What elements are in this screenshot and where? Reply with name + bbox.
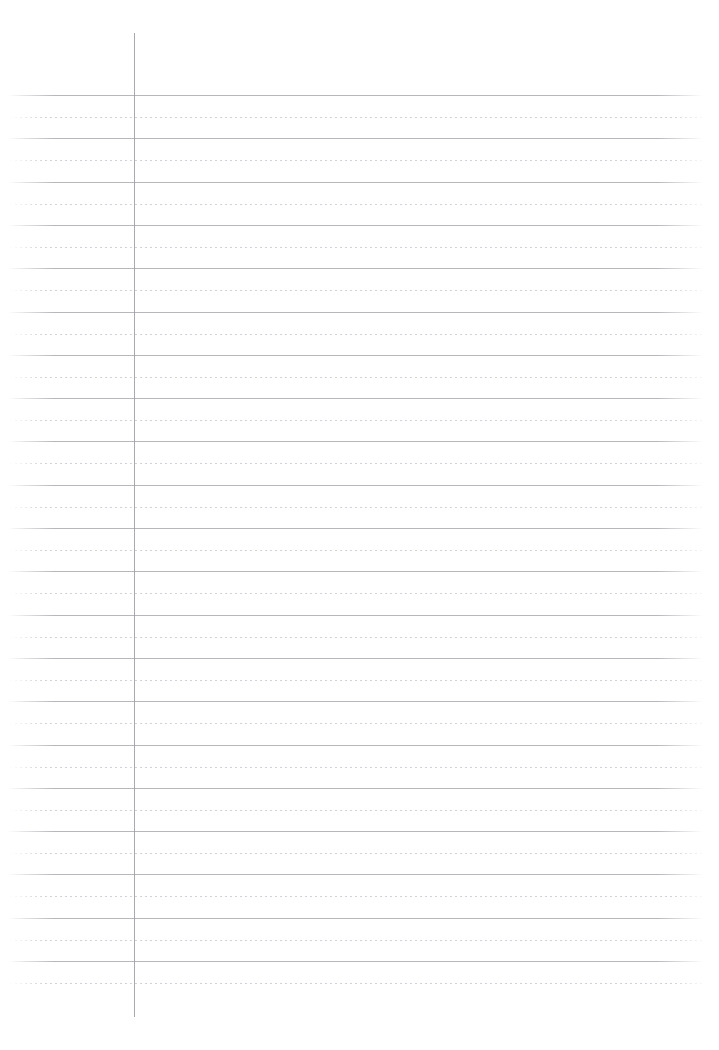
ruled-line-solid — [8, 658, 703, 659]
paper-sheet — [0, 0, 719, 1050]
vertical-margin-line — [134, 33, 135, 1017]
ruled-line-dotted — [10, 637, 707, 638]
ruled-line-dotted — [10, 896, 707, 897]
ruled-line-solid — [8, 961, 703, 962]
ruled-line-solid — [8, 138, 703, 139]
ruled-line-dotted — [10, 810, 707, 811]
ruled-line-solid — [8, 182, 703, 183]
ruled-line-solid — [8, 615, 703, 616]
ruled-line-solid — [8, 485, 703, 486]
ruled-line-solid — [8, 398, 703, 399]
ruled-line-solid — [8, 745, 703, 746]
scan-artifact — [140, 565, 178, 567]
ruled-line-solid — [8, 312, 703, 313]
ruled-line-dotted — [10, 550, 707, 551]
ruled-line-solid — [8, 268, 703, 269]
ruled-line-dotted — [10, 204, 707, 205]
ruled-line-solid — [8, 831, 703, 832]
ruled-line-dotted — [10, 463, 707, 464]
ruled-line-dotted — [10, 940, 707, 941]
ruled-line-dotted — [10, 420, 707, 421]
ruled-line-dotted — [10, 767, 707, 768]
ruled-line-dotted — [10, 680, 707, 681]
ruled-line-dotted — [10, 507, 707, 508]
ruled-line-solid — [8, 918, 703, 919]
ruled-line-dotted — [10, 853, 707, 854]
notebook-page — [0, 0, 719, 1050]
ruled-line-dotted — [10, 377, 707, 378]
ruled-line-dotted — [10, 593, 707, 594]
ruled-line-dotted — [10, 117, 707, 118]
ruled-line-dotted — [10, 334, 707, 335]
ruled-line-solid — [8, 701, 703, 702]
ruled-line-dotted — [10, 247, 707, 248]
ruled-line-dotted — [10, 723, 707, 724]
ruled-line-dotted — [10, 160, 707, 161]
ruled-line-solid — [8, 355, 703, 356]
ruled-line-solid — [8, 874, 703, 875]
ruled-line-dotted — [10, 983, 707, 984]
ruled-line-solid — [8, 95, 703, 96]
ruled-line-solid — [8, 441, 703, 442]
ruled-line-solid — [8, 225, 703, 226]
ruled-line-dotted — [10, 290, 707, 291]
ruled-line-solid — [8, 788, 703, 789]
ruled-line-solid — [8, 528, 703, 529]
ruled-line-solid — [8, 571, 703, 572]
